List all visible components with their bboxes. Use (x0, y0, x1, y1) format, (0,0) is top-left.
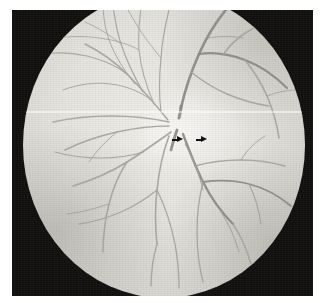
page-margin-right (313, 0, 325, 303)
page-margin-top (0, 0, 325, 10)
photographic-plate (12, 10, 313, 296)
annotation-arrow-2 (196, 136, 207, 143)
retinal-vessel-tree (23, 10, 305, 296)
page-margin-left (0, 0, 12, 303)
fundus-field (23, 10, 305, 296)
arrow-head-icon (177, 136, 183, 142)
horizontal-scan-line (23, 111, 305, 113)
annotation-arrow-1 (172, 136, 183, 143)
fundus-photograph-page (0, 0, 325, 303)
arrow-head-icon (201, 136, 207, 142)
page-margin-bottom (0, 296, 325, 303)
